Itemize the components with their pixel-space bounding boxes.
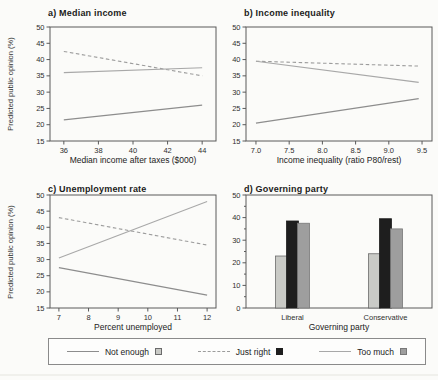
x-axis-label-a: Median income after taxes ($000) bbox=[50, 155, 216, 165]
panel-unemployment-rate: c) Unemployment rate Predicted public op… bbox=[0, 184, 219, 360]
series-line-just-right bbox=[59, 218, 207, 245]
y-tick-label: 45 bbox=[232, 39, 240, 48]
y-tick-label: 15 bbox=[232, 137, 240, 146]
black-swatch-icon bbox=[276, 348, 283, 355]
solid-line-sample-icon bbox=[67, 351, 99, 352]
x-tick-label: 38 bbox=[94, 146, 102, 155]
y-tick-label: 40 bbox=[232, 213, 240, 222]
y-tick-label: 20 bbox=[232, 258, 240, 267]
y-tick-label: 40 bbox=[232, 55, 240, 64]
x-axis-label-b: Income inequality (ratio P80/rest) bbox=[246, 155, 432, 165]
y-tick-label: 15 bbox=[36, 137, 44, 146]
panel-governing-party: d) Governing party 01020304050LiberalCon… bbox=[227, 184, 438, 360]
y-tick-label: 50 bbox=[36, 23, 44, 32]
x-tick-label: 40 bbox=[129, 146, 137, 155]
category-label: Conservative bbox=[364, 313, 408, 322]
legend: Not enough Just right Too much bbox=[48, 338, 426, 365]
y-tick-label: 35 bbox=[36, 239, 44, 248]
x-tick-label: 8.5 bbox=[350, 146, 360, 155]
bar-just-right-conservative bbox=[380, 219, 392, 308]
x-tick-label: 7.5 bbox=[284, 146, 294, 155]
x-axis-label-d: Governing party bbox=[246, 322, 432, 332]
y-tick-label: 25 bbox=[36, 271, 44, 280]
x-axis-label-c: Percent unemployed bbox=[50, 322, 216, 332]
y-tick-label: 20 bbox=[232, 120, 240, 129]
y-tick-label: 30 bbox=[36, 255, 44, 264]
series-line-too-much bbox=[59, 201, 207, 258]
x-tick-label: 9 bbox=[116, 313, 120, 322]
bar-too-much-conservative bbox=[391, 229, 403, 308]
bar-not-enough-conservative bbox=[369, 254, 381, 308]
x-tick-label: 7.0 bbox=[251, 146, 261, 155]
bar-just-right-liberal bbox=[287, 221, 299, 308]
x-tick-label: 7 bbox=[57, 313, 61, 322]
x-tick-label: 42 bbox=[163, 146, 171, 155]
series-line-not-enough bbox=[256, 99, 419, 123]
dashed-line-sample-icon bbox=[198, 351, 230, 352]
legend-label: Not enough bbox=[105, 347, 149, 357]
y-tick-label: 50 bbox=[232, 23, 240, 32]
y-tick-label: 0 bbox=[236, 304, 240, 313]
line-chart-unemployment-rate: 1520253035404550789101112 bbox=[0, 184, 219, 360]
x-tick-label: 9.5 bbox=[417, 146, 427, 155]
y-tick-label: 30 bbox=[232, 88, 240, 97]
y-tick-label: 30 bbox=[232, 236, 240, 245]
x-tick-label: 9.0 bbox=[384, 146, 394, 155]
y-tick-label: 20 bbox=[36, 120, 44, 129]
figure-predicted-public-opinion: a) Median income Predicted public opinio… bbox=[0, 0, 438, 380]
bar-too-much-liberal bbox=[298, 223, 310, 308]
legend-item-too-much: Too much bbox=[319, 347, 407, 357]
plot-frame bbox=[246, 27, 432, 141]
y-tick-label: 20 bbox=[36, 287, 44, 296]
y-tick-label: 35 bbox=[36, 71, 44, 80]
series-line-just-right bbox=[256, 61, 419, 66]
y-tick-label: 25 bbox=[36, 104, 44, 113]
solid-line-sample-icon bbox=[319, 351, 351, 352]
legend-item-not-enough: Not enough bbox=[67, 347, 162, 357]
y-tick-label: 50 bbox=[36, 191, 44, 200]
y-tick-label: 25 bbox=[232, 104, 240, 113]
x-tick-label: 36 bbox=[60, 146, 68, 155]
y-tick-label: 50 bbox=[232, 191, 240, 200]
y-tick-label: 45 bbox=[36, 39, 44, 48]
y-tick-label: 15 bbox=[36, 304, 44, 313]
panel-median-income: a) Median income Predicted public opinio… bbox=[0, 8, 219, 184]
legend-label: Just right bbox=[236, 347, 271, 357]
scan-artifact-line bbox=[0, 374, 438, 376]
y-tick-label: 40 bbox=[36, 223, 44, 232]
y-tick-label: 10 bbox=[232, 281, 240, 290]
series-line-not-enough bbox=[64, 105, 202, 120]
plot-frame bbox=[246, 195, 432, 308]
y-tick-label: 35 bbox=[232, 71, 240, 80]
series-line-not-enough bbox=[59, 268, 207, 295]
x-tick-label: 8 bbox=[86, 313, 90, 322]
x-tick-label: 44 bbox=[198, 146, 206, 155]
y-tick-label: 30 bbox=[36, 88, 44, 97]
bar-chart-governing-party: 01020304050LiberalConservative bbox=[227, 184, 438, 360]
x-tick-label: 8.0 bbox=[317, 146, 327, 155]
x-tick-label: 12 bbox=[203, 313, 211, 322]
legend-label: Too much bbox=[357, 347, 394, 357]
y-tick-label: 45 bbox=[36, 207, 44, 216]
x-tick-label: 11 bbox=[174, 313, 182, 322]
x-tick-label: 10 bbox=[144, 313, 152, 322]
panel-income-inequality: b) Income inequality 15202530354045507.0… bbox=[227, 8, 438, 184]
plot-frame bbox=[50, 27, 216, 141]
legend-item-just-right: Just right bbox=[198, 347, 284, 357]
y-tick-label: 40 bbox=[36, 55, 44, 64]
series-line-too-much bbox=[256, 61, 419, 82]
light-gray-swatch-icon bbox=[155, 348, 162, 355]
category-label: Liberal bbox=[281, 313, 304, 322]
gray-swatch-icon bbox=[400, 348, 407, 355]
bar-not-enough-liberal bbox=[276, 256, 288, 308]
